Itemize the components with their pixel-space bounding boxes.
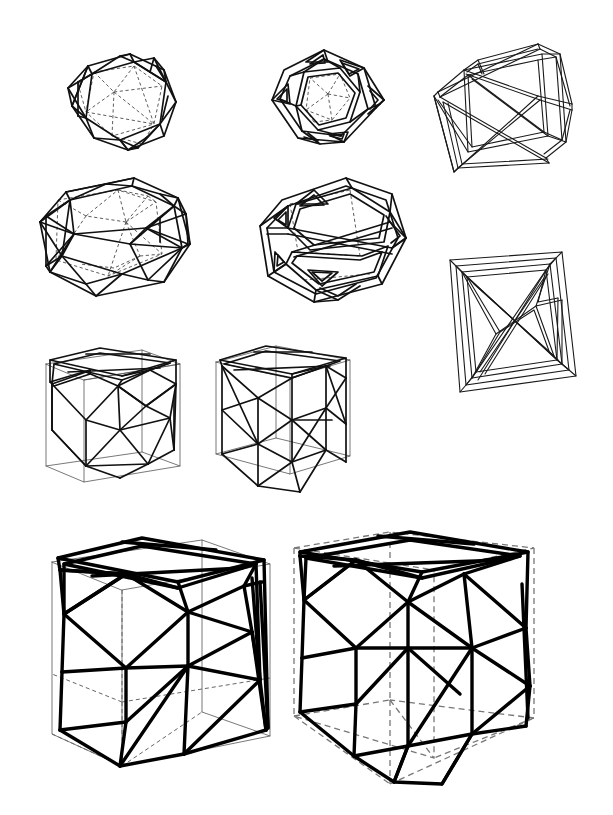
figure-plate [0, 0, 613, 815]
visible-edges [40, 178, 190, 296]
strut-ribbons [450, 252, 576, 392]
inscribed-heavy-struts [300, 532, 530, 784]
figure-cube-struts-small-right [200, 334, 365, 504]
strut-ribbons [434, 44, 572, 172]
strut-ribbons [272, 50, 384, 144]
figure-cube-struts-large-right [282, 518, 547, 798]
figure-cube-struts-small-left [30, 334, 195, 499]
strut-ribbons [260, 178, 406, 302]
figure-elongated-polyhedron-strut-frame [242, 160, 422, 320]
figure-icosahedron-strut-frame [244, 26, 404, 166]
figure-elongated-polyhedron-single-line [22, 156, 212, 316]
figure-octahedron-strut-frame-upper [420, 30, 600, 185]
visible-edges [68, 54, 176, 150]
inner-dotted-pentagon [306, 74, 350, 122]
figure-icosahedron-single-line [42, 26, 202, 166]
inscribed-struts [50, 348, 176, 478]
figure-octahedron-strut-frame-lower [436, 244, 591, 404]
inscribed-heavy-struts [58, 538, 268, 766]
inscribed-struts [220, 346, 346, 492]
figure-cube-struts-large-left [34, 522, 289, 790]
